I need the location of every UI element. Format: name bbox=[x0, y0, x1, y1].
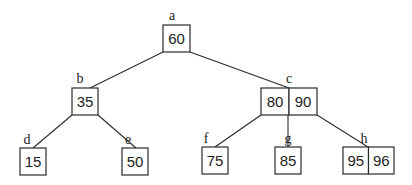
tree-node-a: 60a bbox=[163, 8, 190, 52]
tree-node-b: 35b bbox=[72, 71, 98, 115]
nodes: 60a35b8090c15d50e75f85g9596h bbox=[20, 8, 394, 175]
node-key: 35 bbox=[77, 93, 94, 110]
tree-diagram: 60a35b8090c15d50e75f85g9596h bbox=[0, 0, 412, 185]
node-key: 80 bbox=[267, 93, 284, 110]
node-key: 50 bbox=[127, 153, 144, 170]
node-label: e bbox=[125, 132, 131, 147]
node-key: 96 bbox=[373, 152, 390, 169]
node-label: d bbox=[24, 132, 31, 147]
node-label: g bbox=[285, 131, 292, 146]
edge-a-c bbox=[190, 52, 289, 88]
tree-node-c: 8090c bbox=[261, 71, 317, 115]
node-key: 95 bbox=[347, 152, 364, 169]
node-key: 60 bbox=[168, 30, 185, 47]
node-key: 75 bbox=[207, 152, 224, 169]
edge-b-d bbox=[33, 115, 72, 148]
edge-c-f bbox=[215, 115, 261, 147]
node-label: f bbox=[204, 131, 209, 146]
tree-node-e: 50e bbox=[122, 132, 148, 175]
node-key: 15 bbox=[25, 153, 42, 170]
node-key: 85 bbox=[280, 152, 297, 169]
node-key: 90 bbox=[295, 93, 312, 110]
edge-a-b bbox=[90, 52, 163, 88]
node-label: b bbox=[77, 71, 84, 86]
node-label: c bbox=[286, 71, 292, 86]
tree-node-g: 85g bbox=[275, 131, 301, 174]
tree-node-h: 9596h bbox=[343, 131, 394, 174]
tree-node-d: 15d bbox=[20, 132, 46, 175]
node-label: a bbox=[169, 8, 176, 23]
tree-node-f: 75f bbox=[202, 131, 228, 174]
node-label: h bbox=[361, 131, 368, 146]
